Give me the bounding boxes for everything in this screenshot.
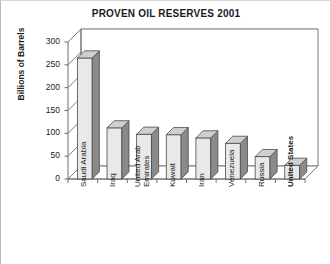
x-category-label: Russia <box>257 163 266 187</box>
x-category-label: United Arab Emirates <box>133 145 151 187</box>
y-tick-label: 300 <box>32 37 60 46</box>
x-category-label: Iran <box>197 173 206 187</box>
bar <box>107 121 129 179</box>
x-category-label: Venezuela <box>227 150 236 187</box>
x-category-label: Saudi Arabia <box>79 142 88 187</box>
x-ticks-group <box>68 179 305 183</box>
y-tick-label: 200 <box>32 83 60 92</box>
x-category-label: Iraq <box>108 173 117 187</box>
y-tick-label: 250 <box>32 60 60 69</box>
y-tick-label: 0 <box>32 174 60 183</box>
chart-screenshot: PROVEN OIL RESERVES 2001 Billions of Bar… <box>0 0 330 264</box>
plot-area <box>1 1 330 201</box>
bar <box>196 131 218 179</box>
floor-group <box>68 29 318 179</box>
y-tick-label: 50 <box>32 151 60 160</box>
y-tick-label: 100 <box>32 128 60 137</box>
x-category-label: Kuwait <box>168 163 177 187</box>
x-category-label: United States <box>286 136 295 187</box>
y-tick-label: 150 <box>32 106 60 115</box>
chart-canvas <box>1 1 330 201</box>
